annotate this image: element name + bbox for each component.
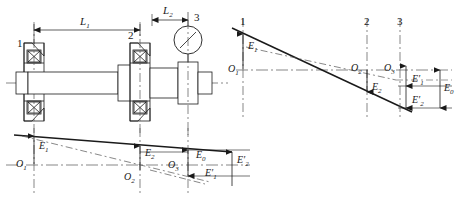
engineering-drawing-canvas [0, 0, 461, 205]
dimension-label-L2: L2 [163, 5, 173, 19]
top-label-O1: O1 [228, 64, 239, 77]
bottom-label-E2: E2 [145, 148, 155, 161]
bottom-label-O1: O1 [16, 159, 27, 172]
assembly-group [6, 12, 228, 135]
top-label-E1-prime: E′1 [412, 74, 424, 87]
top-label-E1: E1 [248, 41, 258, 54]
dimension-label-L1: L1 [80, 16, 90, 30]
measuring-collar [150, 62, 212, 104]
figure-root: 1 2 3 L1 L2 O1 E1 O2 E2 O3 E0 E′1 E′2 1 … [0, 0, 461, 205]
top-label-O3: O3 [384, 63, 395, 76]
bottom-label-O2: O2 [124, 172, 135, 185]
top-label-O2: O2 [351, 63, 362, 76]
bottom-label-E1: E1 [39, 141, 49, 154]
assembly-callout-1: 1 [17, 38, 23, 49]
assembly-callout-3: 3 [194, 12, 200, 23]
bottom-label-E0: E0 [196, 150, 206, 163]
bottom-label-E1-prime: E′1 [205, 168, 217, 181]
top-station-label-1: 1 [240, 16, 246, 27]
top-auxiliary-line [246, 47, 396, 80]
shaft [28, 65, 144, 101]
assembly-callout-2: 2 [128, 30, 134, 41]
bottom-label-E2-prime: E′2 [237, 155, 249, 168]
top-station-label-3: 3 [397, 16, 403, 27]
top-label-E0: E0 [444, 83, 454, 96]
top-station-label-2: 2 [364, 16, 370, 27]
bottom-label-O3: O3 [168, 160, 179, 173]
top-label-E2-prime: E′2 [412, 95, 424, 108]
top-label-E2: E2 [372, 82, 382, 95]
